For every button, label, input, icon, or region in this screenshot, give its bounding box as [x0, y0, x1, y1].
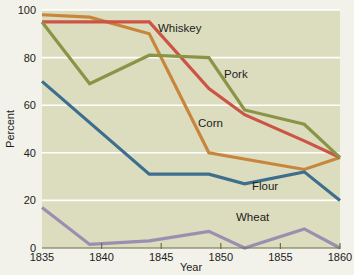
y-tick-label: 100 [18, 4, 36, 16]
y-tick-label: 80 [24, 52, 36, 64]
y-axis-title: Percent [4, 110, 16, 148]
y-tick-label: 60 [24, 99, 36, 111]
y-axis-ticks: 020406080100 [18, 4, 36, 254]
x-tick-label: 1860 [328, 251, 352, 263]
x-axis-title: Year [180, 261, 203, 273]
x-tick-label: 1840 [89, 251, 113, 263]
series-label-wheat: Wheat [236, 211, 270, 223]
series-label-whiskey: Whiskey [158, 22, 202, 34]
y-tick-label: 0 [30, 242, 36, 254]
series-label-flour: Flour [252, 180, 278, 192]
x-tick-label: 1850 [209, 251, 233, 263]
y-tick-label: 20 [24, 194, 36, 206]
y-tick-label: 40 [24, 147, 36, 159]
x-tick-label: 1855 [268, 251, 292, 263]
series-label-corn: Corn [198, 117, 223, 129]
line-chart: 183518401845185018551860 020406080100 Pe… [0, 0, 354, 275]
plot-background [42, 10, 340, 248]
series-label-pork: Pork [224, 68, 248, 80]
chart-container: 183518401845185018551860 020406080100 Pe… [0, 0, 354, 275]
x-tick-label: 1845 [149, 251, 173, 263]
